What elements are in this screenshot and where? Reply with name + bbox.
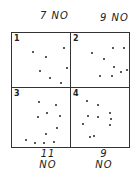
dot (126, 69, 128, 71)
dot (99, 75, 101, 77)
quadrant-3: 3 (11, 87, 71, 148)
dot (109, 112, 111, 114)
dot (89, 136, 91, 138)
dot (32, 51, 34, 53)
top-left-label: 7 NO (40, 10, 69, 21)
top-right-text: NO (112, 12, 129, 23)
dot (120, 71, 122, 73)
top-left-count: 7 (40, 10, 47, 21)
bottom-left-count: 11 (36, 148, 60, 159)
dot (109, 124, 111, 126)
dot (87, 115, 89, 117)
quadrant-2: 2 (70, 32, 130, 88)
dot (60, 82, 62, 84)
dot (45, 133, 47, 135)
bottom-right-count: 9 (92, 148, 116, 159)
quadrant-1: 1 (11, 32, 71, 88)
dot (37, 116, 39, 118)
bottom-left-label: 11 NO (36, 148, 60, 170)
quadrant-number: 2 (73, 34, 79, 43)
dot (82, 123, 84, 125)
dot (103, 58, 105, 60)
dot (123, 47, 125, 49)
dot (53, 141, 55, 143)
dot (97, 116, 99, 118)
dot (46, 112, 48, 114)
dot (93, 135, 95, 137)
dot (59, 115, 61, 117)
dot (86, 100, 88, 102)
dot (97, 104, 99, 106)
bottom-right-label: 9 NO (92, 148, 116, 170)
dot (39, 70, 41, 72)
bottom-right-text: NO (92, 159, 116, 170)
dot (63, 47, 65, 49)
top-right-label: 9 NO (100, 12, 129, 23)
dot (38, 101, 40, 103)
quadrant-number: 3 (14, 89, 20, 98)
top-right-count: 9 (100, 12, 107, 23)
quadrant-number: 4 (73, 89, 79, 98)
quadrant-number: 1 (14, 34, 20, 43)
dot (34, 142, 36, 144)
dot (56, 127, 58, 129)
dot (66, 67, 68, 69)
dot (55, 104, 57, 106)
dot (25, 139, 27, 141)
bottom-left-text: NO (36, 159, 60, 170)
dot (49, 77, 51, 79)
dot (43, 142, 45, 144)
dot (111, 75, 113, 77)
quadrant-grid: 1 2 3 4 (11, 32, 129, 147)
dot (112, 47, 114, 49)
top-left-text: NO (52, 10, 69, 21)
dot (45, 56, 47, 58)
dot (113, 66, 115, 68)
quadrant-4: 4 (70, 87, 130, 148)
dot (91, 52, 93, 54)
dot (110, 118, 112, 120)
